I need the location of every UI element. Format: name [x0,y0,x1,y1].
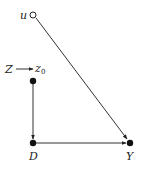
node-u [30,12,36,18]
node-z0-subscript: 0 [41,68,45,76]
node-z0 [30,78,36,84]
node-y [127,140,133,146]
edge-u-to-y [36,18,127,139]
node-u-label: u [20,9,27,22]
intervention-z-label: Z [4,63,13,76]
node-d-label: D [28,150,38,163]
node-d [30,140,36,146]
causal-diagram: u Z z 0 D Y [0,0,144,169]
node-y-label: Y [126,150,135,163]
node-z0-label: z [34,62,41,75]
